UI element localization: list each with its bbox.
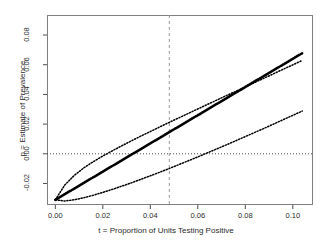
x-tick-label: 0.02	[96, 211, 111, 220]
plot-canvas	[0, 0, 332, 243]
prevalence-estimate-chart: 0.000.020.040.060.080.10-0.020.000.020.0…	[0, 0, 332, 243]
x-tick-label: 0.04	[143, 211, 158, 220]
x-tick-label: 0.06	[191, 211, 206, 220]
x-tick-label: 0.08	[238, 211, 253, 220]
x-tick-label: 0.00	[48, 211, 63, 220]
y-axis-title: p = Estimate of Prevalence	[18, 39, 27, 179]
chart-background	[0, 0, 332, 243]
x-axis-title: t = Proportion of Units Testing Positive	[0, 226, 332, 235]
x-tick-label: 0.10	[286, 211, 301, 220]
